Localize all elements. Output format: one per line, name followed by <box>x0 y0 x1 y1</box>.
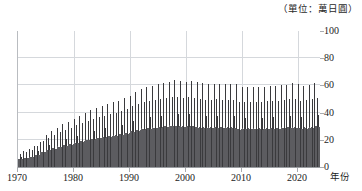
x-tick-label: 1990 <box>119 172 139 183</box>
x-tick-label: 1970 <box>7 172 27 183</box>
y-tick-mark <box>320 140 324 141</box>
x-tick-mark <box>241 168 242 172</box>
x-tick-label: 2020 <box>287 172 307 183</box>
y-tick-mark <box>320 167 324 168</box>
unit-note: （單位：萬日圓） <box>278 3 358 15</box>
x-axis-title: 年份 <box>330 172 350 183</box>
x-tick-mark <box>185 168 186 172</box>
y-tick-mark <box>320 31 324 32</box>
x-tick-mark <box>297 168 298 172</box>
x-tick-label: 1980 <box>63 172 83 183</box>
y-tick-mark <box>320 113 324 114</box>
y-tick-label: 0 <box>324 162 329 172</box>
x-tick-label: 2010 <box>231 172 251 183</box>
y-tick-label: 60 <box>324 80 334 90</box>
y-tick-mark <box>320 85 324 86</box>
plot-area <box>17 31 320 168</box>
x-tick-label: 2000 <box>175 172 195 183</box>
y-tick-label: 80 <box>324 53 334 63</box>
bar-series <box>18 31 320 167</box>
y-tick-label: 20 <box>324 135 334 145</box>
chart-root: （單位：萬日圓） 020406080100 197019801990200020… <box>0 0 362 191</box>
x-tick-mark <box>73 168 74 172</box>
y-tick-mark <box>320 58 324 59</box>
y-tick-label: 100 <box>324 26 339 36</box>
y-tick-label: 40 <box>324 108 334 118</box>
x-tick-mark <box>17 168 18 172</box>
x-tick-mark <box>129 168 130 172</box>
